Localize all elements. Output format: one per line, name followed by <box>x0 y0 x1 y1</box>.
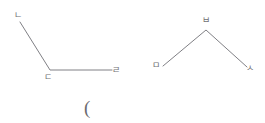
vertex-label-bieup: ㅂ <box>202 16 210 25</box>
vertex-label-rieul: ㄹ <box>112 66 120 75</box>
vertex-label-digeut: ㄷ <box>44 73 52 82</box>
geometry-diagram-canvas <box>0 0 265 123</box>
vertex-label-mieum: ㅁ <box>152 61 160 70</box>
left-angle-polyline <box>20 22 112 70</box>
right-angle-polyline <box>163 30 247 67</box>
vertex-label-nieun: ㄴ <box>14 11 22 20</box>
open-parenthesis-mark: ( <box>84 98 90 117</box>
vertex-label-siot: ㅅ <box>246 64 254 73</box>
